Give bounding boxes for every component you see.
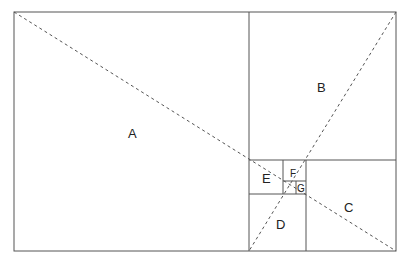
label-e: E [262, 171, 271, 186]
label-g: G [297, 183, 305, 194]
label-d: D [276, 217, 285, 232]
label-f: F [290, 168, 296, 179]
diagonal-dashed-2 [249, 12, 396, 251]
label-b: B [317, 80, 326, 95]
diagonal-dashed-1 [14, 12, 396, 251]
golden-rectangle-diagram: A B C D E F G [0, 0, 408, 266]
label-a: A [128, 126, 137, 141]
label-c: C [344, 200, 353, 215]
